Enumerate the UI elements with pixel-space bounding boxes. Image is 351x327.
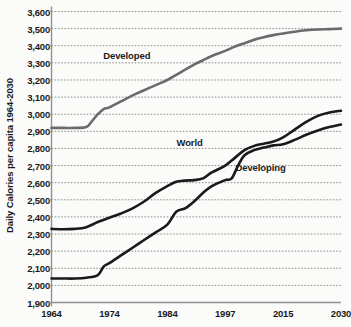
series-line-developing	[52, 124, 342, 278]
x-axis-tick-label: 1964	[41, 308, 61, 319]
series-label-developing: Developing	[235, 162, 285, 173]
axis-lines	[47, 7, 342, 307]
series-label-developed: Developed	[103, 50, 150, 61]
series-line-world	[52, 111, 342, 229]
series-label-world: World	[176, 136, 202, 147]
x-axis-tick-label: 1997	[215, 308, 235, 319]
x-axis-tick-label: 2030	[331, 308, 351, 319]
x-axis-tick-label: 2015	[273, 308, 293, 319]
series-line-developed	[52, 29, 342, 128]
x-axis-tick-label: 1984	[157, 308, 177, 319]
x-axis-tick-label: 1974	[99, 308, 119, 319]
gridlines	[52, 12, 342, 286]
